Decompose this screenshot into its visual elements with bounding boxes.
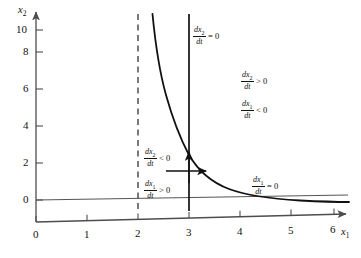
relation-symbol: > 0 bbox=[159, 186, 170, 195]
relation-symbol: = 0 bbox=[267, 182, 278, 191]
x-axis-label: x1 bbox=[341, 226, 349, 240]
x-tick-6: 6 bbox=[330, 223, 336, 235]
x-tick-3: 3 bbox=[186, 226, 192, 238]
x-tick-2: 2 bbox=[135, 227, 141, 239]
fraction-dx1-dt: dx1 dt bbox=[144, 180, 157, 200]
y-tick-4: 4 bbox=[23, 119, 29, 131]
y-tick-8: 8 bbox=[23, 45, 29, 57]
relation-symbol: < 0 bbox=[159, 154, 170, 163]
annotation-dx2dt-negative: dx2 dt < 0 bbox=[144, 148, 170, 168]
fraction-dx2-dt: dx2 dt bbox=[193, 26, 206, 46]
x-tick-5: 5 bbox=[288, 224, 294, 236]
fraction-dx2-dt: dx2 dt bbox=[144, 148, 157, 168]
annotation-dx1dt-negative: dx1 dt < 0 bbox=[241, 100, 267, 120]
annotation-dx1dt-positive: dx1 dt > 0 bbox=[144, 180, 170, 200]
fraction-dx2-dt: dx2 dt bbox=[241, 71, 254, 91]
y-axis-ticks bbox=[36, 30, 43, 200]
phase-plane-figure: x2 x1 10 8 6 4 2 0 0 1 2 3 4 5 6 dx2 dt … bbox=[0, 0, 361, 258]
y-tick-2: 2 bbox=[23, 156, 29, 168]
fraction-dx1-dt: dx1 dt bbox=[241, 100, 254, 120]
horizontal-asymptote bbox=[36, 195, 348, 200]
y-tick-10: 10 bbox=[16, 23, 27, 35]
x-axis-line bbox=[36, 214, 346, 222]
x-tick-1: 1 bbox=[84, 228, 90, 240]
relation-symbol: > 0 bbox=[256, 77, 267, 86]
y-tick-6: 6 bbox=[23, 82, 29, 94]
x-tick-0: 0 bbox=[33, 228, 39, 240]
relation-symbol: = 0 bbox=[208, 32, 219, 41]
fraction-dx1-dt: dx1 dt bbox=[252, 176, 265, 196]
x-tick-4: 4 bbox=[237, 225, 243, 237]
y-axis-label: x2 bbox=[18, 4, 26, 18]
annotation-dx2dt-zero: dx2 dt = 0 bbox=[193, 26, 219, 46]
annotation-dx1dt-zero: dx1 dt = 0 bbox=[252, 176, 278, 196]
annotation-dx2dt-positive: dx2 dt > 0 bbox=[241, 71, 267, 91]
plot-canvas bbox=[0, 0, 361, 258]
y-tick-0: 0 bbox=[23, 193, 29, 205]
relation-symbol: < 0 bbox=[256, 106, 267, 115]
